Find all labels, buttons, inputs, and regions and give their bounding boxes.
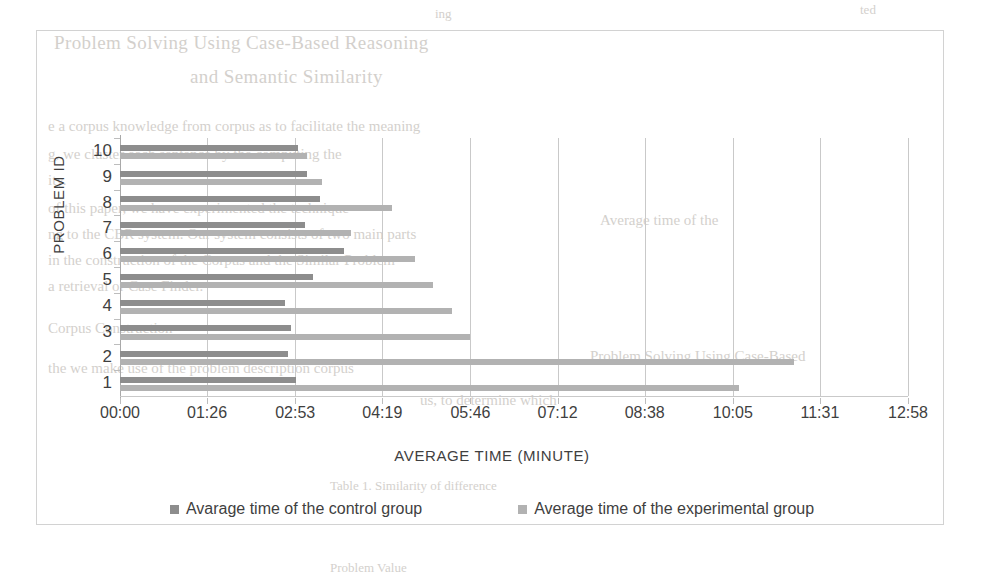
- y-tick-label: 1: [103, 373, 112, 393]
- bar-experimental[interactable]: [120, 256, 415, 262]
- legend-item-experimental[interactable]: Average time of the experimental group: [518, 500, 814, 518]
- x-tick-label: 10:05: [713, 404, 753, 422]
- bar-experimental[interactable]: [120, 205, 392, 211]
- x-tick-label: 08:38: [625, 404, 665, 422]
- bar-control[interactable]: [120, 351, 288, 357]
- y-axis-tick-labels: 12345678910: [62, 138, 112, 396]
- x-tick-label: 04:19: [362, 404, 402, 422]
- bar-experimental[interactable]: [120, 179, 322, 185]
- bar-group: [120, 293, 908, 319]
- chart-legend: Avarage time of the control group Averag…: [0, 500, 984, 518]
- bar-control[interactable]: [120, 325, 291, 331]
- y-tick-label: 3: [103, 322, 112, 342]
- bar-control[interactable]: [120, 171, 307, 177]
- x-tick-label: 02:53: [275, 404, 315, 422]
- bleed-line: ted: [860, 2, 876, 18]
- x-tick-mark: [470, 398, 471, 404]
- y-tick-mark: [114, 370, 120, 371]
- y-tick-mark: [114, 190, 120, 191]
- x-tick-label: 11:31: [800, 404, 839, 422]
- x-tick-mark: [120, 398, 121, 404]
- y-tick-mark: [114, 267, 120, 268]
- bar-group: [120, 164, 908, 190]
- x-tick-mark: [558, 398, 559, 404]
- bar-group: [120, 267, 908, 293]
- bar-control[interactable]: [120, 196, 320, 202]
- legend-label-control: Avarage time of the control group: [186, 500, 422, 518]
- x-tick-label: 00:00: [100, 404, 140, 422]
- bar-control[interactable]: [120, 222, 305, 228]
- y-tick-label: 10: [93, 141, 112, 161]
- bar-group: [120, 215, 908, 241]
- x-tick-mark: [908, 398, 909, 404]
- bar-experimental[interactable]: [120, 359, 794, 365]
- legend-swatch-experimental: [518, 505, 527, 514]
- y-tick-label: 5: [103, 270, 112, 290]
- bar-control[interactable]: [120, 274, 313, 280]
- bar-control[interactable]: [120, 377, 296, 383]
- y-tick-mark: [114, 215, 120, 216]
- bar-group: [120, 241, 908, 267]
- plot-area: [120, 138, 908, 396]
- bar-control[interactable]: [120, 145, 298, 151]
- bar-experimental[interactable]: [120, 230, 351, 236]
- legend-item-control[interactable]: Avarage time of the control group: [170, 500, 422, 518]
- bar-group: [120, 344, 908, 370]
- y-tick-label: 8: [103, 193, 112, 213]
- x-axis-title: AVERAGE TIME (MINUTE): [0, 447, 984, 464]
- y-tick-label: 9: [103, 167, 112, 187]
- bleed-line: ing: [435, 6, 452, 22]
- y-tick-label: 4: [103, 296, 112, 316]
- x-tick-label: 07:12: [538, 404, 578, 422]
- bar-group: [120, 319, 908, 345]
- y-tick-mark: [114, 344, 120, 345]
- x-tick-mark: [733, 398, 734, 404]
- y-tick-mark: [114, 293, 120, 294]
- legend-label-experimental: Average time of the experimental group: [534, 500, 814, 518]
- bar-experimental[interactable]: [120, 153, 307, 159]
- bar-control[interactable]: [120, 300, 285, 306]
- x-tick-mark: [295, 398, 296, 404]
- y-tick-mark: [114, 164, 120, 165]
- bar-experimental[interactable]: [120, 308, 452, 314]
- y-tick-label: 6: [103, 244, 112, 264]
- y-tick-mark: [114, 138, 120, 139]
- x-tick-label: 01:26: [187, 404, 227, 422]
- bar-experimental[interactable]: [120, 282, 433, 288]
- x-tick-mark: [820, 398, 821, 404]
- bar-control[interactable]: [120, 248, 344, 254]
- bleed-line: Problem Value: [330, 560, 407, 576]
- y-tick-mark: [114, 241, 120, 242]
- legend-swatch-control: [170, 505, 179, 514]
- bar-group: [120, 370, 908, 396]
- x-tick-label: 05:46: [450, 404, 490, 422]
- x-axis-line: [120, 396, 908, 397]
- y-tick-label: 2: [103, 347, 112, 367]
- y-tick-mark: [114, 319, 120, 320]
- x-tick-mark: [207, 398, 208, 404]
- bar-group: [120, 138, 908, 164]
- y-tick-label: 7: [103, 218, 112, 238]
- gridline: [908, 138, 909, 396]
- x-axis-tick-labels: 00:0001:2602:5304:1905:4607:1208:3810:05…: [0, 404, 984, 428]
- x-tick-label: 12:58: [888, 404, 928, 422]
- bar-experimental[interactable]: [120, 385, 739, 391]
- bar-experimental[interactable]: [120, 334, 470, 340]
- x-tick-mark: [382, 398, 383, 404]
- x-tick-mark: [645, 398, 646, 404]
- bar-group: [120, 190, 908, 216]
